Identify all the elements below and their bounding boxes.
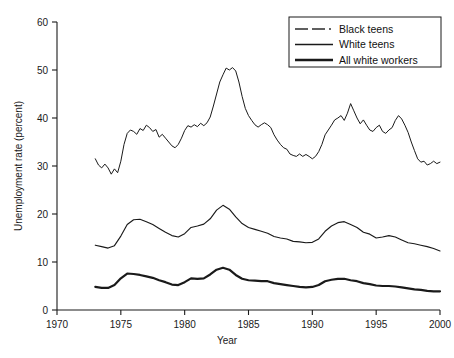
series-line-white-teens xyxy=(95,205,440,251)
y-tick-label-20: 20 xyxy=(37,209,49,220)
x-tick-label-1970: 1970 xyxy=(46,319,69,330)
unemployment-rate-line-chart: 0102030405060197019751980198519901995200… xyxy=(0,0,454,358)
y-axis-title: Unemployment rate (percent) xyxy=(13,101,24,231)
x-tick-label-1975: 1975 xyxy=(110,319,133,330)
x-tick-label-1990: 1990 xyxy=(301,319,324,330)
x-tick-label-1985: 1985 xyxy=(237,319,260,330)
chart-canvas: 0102030405060197019751980198519901995200… xyxy=(0,0,454,358)
series-line-all-white-workers xyxy=(95,268,440,292)
y-tick-label-40: 40 xyxy=(37,113,49,124)
x-axis-title: Year xyxy=(217,335,238,346)
x-tick-label-1995: 1995 xyxy=(365,319,388,330)
legend-label-white-teens: White teens xyxy=(339,38,394,50)
y-tick-label-60: 60 xyxy=(37,17,49,28)
y-tick-label-30: 30 xyxy=(37,161,49,172)
x-tick-label-2000: 2000 xyxy=(429,319,452,330)
series-line-black-teens xyxy=(95,68,440,175)
y-tick-label-50: 50 xyxy=(37,65,49,76)
x-tick-label-1980: 1980 xyxy=(174,319,197,330)
legend-label-all-white-workers: All white workers xyxy=(339,54,418,66)
legend-label-black-teens: Black teens xyxy=(339,23,393,35)
y-tick-label-10: 10 xyxy=(37,257,49,268)
y-tick-label-0: 0 xyxy=(42,305,48,316)
legend-swatch-dot-icon xyxy=(329,28,331,30)
